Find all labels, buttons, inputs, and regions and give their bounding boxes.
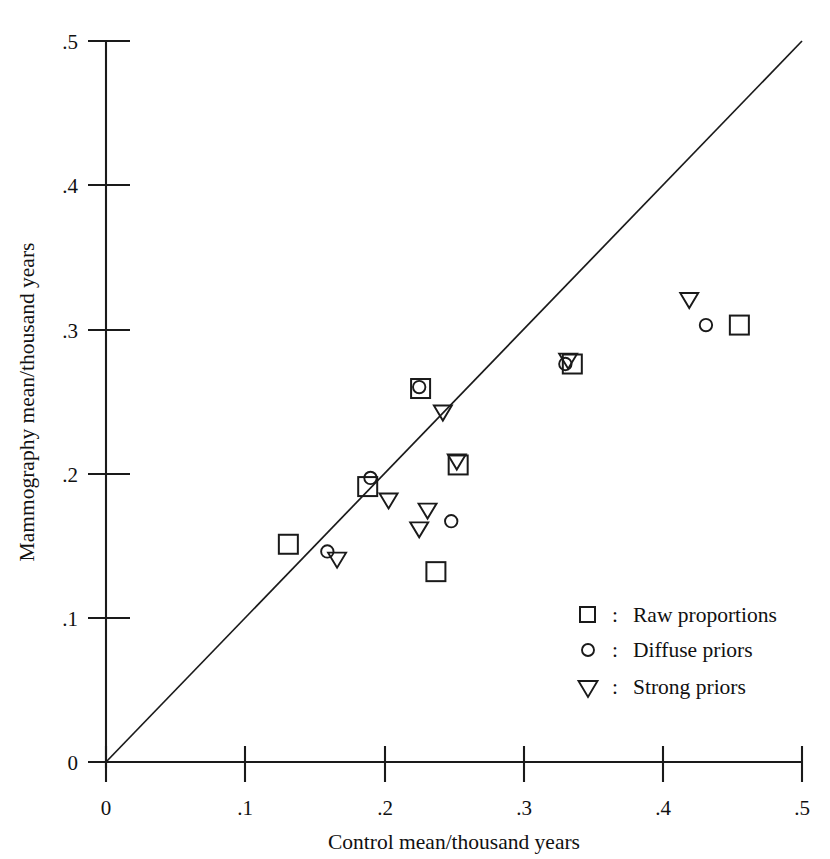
y-tick-label-2: .2	[62, 463, 78, 487]
x-tick-label-0: 0	[101, 796, 112, 820]
legend-entry-raw-proportions: : Raw proportions	[580, 603, 777, 627]
data-point-triangle-down	[680, 293, 698, 308]
legend-entry-strong-priors: : Strong priors	[579, 675, 746, 699]
data-point-circle	[413, 381, 425, 393]
data-point-triangle-down	[448, 455, 466, 470]
legend-label-0: Raw proportions	[633, 603, 777, 627]
data-point-square	[426, 562, 445, 581]
legend-separator-2: :	[612, 675, 618, 699]
y-axis-ticks	[88, 41, 130, 762]
legend-separator-0: :	[612, 603, 618, 627]
legend-separator-1: :	[612, 638, 618, 662]
data-point-triangle-down	[328, 553, 346, 568]
data-point-square	[279, 535, 298, 554]
data-point-triangle-down	[410, 522, 428, 537]
y-tick-labels: .5 .4 .3 .2 .1 0	[62, 30, 78, 775]
y-tick-label-5: .5	[62, 30, 78, 54]
data-point-triangle-down	[419, 504, 437, 519]
x-tick-label-1: .1	[237, 796, 253, 820]
legend-label-1: Diffuse priors	[633, 638, 753, 662]
x-tick-labels: 0 .1 .2 .3 .4 .5	[101, 796, 810, 820]
legend: : Raw proportions : Diffuse priors : Str…	[579, 603, 777, 699]
plot-canvas: .5 .4 .3 .2 .1 0 0 .1 .2 .3 .4 .5 Contro…	[0, 0, 830, 859]
x-tick-label-4: .4	[655, 796, 671, 820]
legend-label-2: Strong priors	[633, 675, 746, 699]
y-tick-label-1: .1	[62, 607, 78, 631]
x-axis-ticks	[106, 746, 802, 782]
x-tick-label-3: .3	[516, 796, 532, 820]
x-tick-label-2: .2	[377, 796, 393, 820]
y-tick-label-3: .3	[62, 319, 78, 343]
data-point-triangle-down	[380, 493, 398, 508]
data-point-circle	[700, 319, 712, 331]
data-point-square	[730, 316, 749, 335]
y-axis-title: Mammography mean/thousand years	[15, 243, 39, 562]
data-point-square	[358, 477, 377, 496]
triangle-down-icon	[579, 681, 598, 697]
square-icon	[580, 607, 595, 622]
data-point-square	[449, 455, 468, 474]
data-point-circle	[321, 545, 333, 557]
x-axis-title: Control mean/thousand years	[328, 830, 580, 854]
legend-entry-diffuse-priors: : Diffuse priors	[582, 638, 753, 662]
circle-icon	[582, 644, 594, 656]
data-markers-layer	[279, 293, 749, 581]
y-tick-label-0: 0	[68, 751, 79, 775]
scatter-plot-figure: .5 .4 .3 .2 .1 0 0 .1 .2 .3 .4 .5 Contro…	[0, 0, 830, 859]
y-tick-label-4: .4	[62, 174, 78, 198]
x-tick-label-5: .5	[794, 796, 810, 820]
data-point-circle	[445, 515, 457, 527]
